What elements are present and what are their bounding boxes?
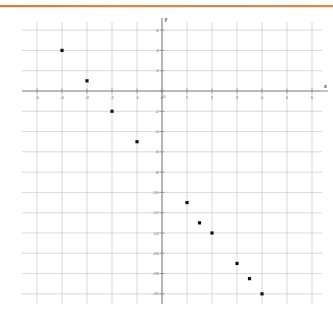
coordinate-grid-svg: -5-4-3-2-10123456 6420-2-4-6-8-10-12-14-… [0,12,333,315]
x-axis-label: x [324,83,327,89]
svg-text:-5: -5 [35,95,39,100]
svg-text:-4: -4 [60,95,64,100]
data-point [110,110,113,113]
data-point [260,292,263,295]
svg-text:-10: -10 [152,190,159,195]
y-axis-ticks: 6420-2-4-6-8-10-12-14-16-18-20 [152,28,166,297]
x-axis-ticks: -5-4-3-2-10123456 [35,88,314,100]
data-point [248,277,251,280]
scatter-plot: -5-4-3-2-10123456 6420-2-4-6-8-10-12-14-… [0,12,333,315]
svg-text:2: 2 [211,95,214,100]
svg-text:-12: -12 [152,210,159,215]
svg-text:-18: -18 [152,271,159,276]
data-point [185,201,188,204]
svg-text:-16: -16 [152,251,159,256]
data-point [60,49,63,52]
data-point [198,221,201,224]
svg-text:3: 3 [236,95,239,100]
axes [22,18,328,304]
svg-text:5: 5 [286,95,289,100]
data-point [235,262,238,265]
svg-text:-1: -1 [135,95,139,100]
chart-page: -5-4-3-2-10123456 6420-2-4-6-8-10-12-14-… [0,0,333,315]
svg-text:-14: -14 [152,231,159,236]
svg-text:4: 4 [261,95,264,100]
vertical-gridlines [37,22,312,304]
svg-text:0: 0 [163,94,166,99]
data-point [85,79,88,82]
horizontal-gridlines [22,30,322,294]
data-point [210,231,213,234]
svg-text:-3: -3 [85,95,89,100]
svg-text:-20: -20 [152,291,159,296]
y-axis-label: y [165,16,168,22]
data-point [135,140,138,143]
svg-text:1: 1 [186,95,189,100]
top-rule-shadow [0,7,333,8]
svg-text:6: 6 [311,95,314,100]
svg-text:-2: -2 [110,95,114,100]
